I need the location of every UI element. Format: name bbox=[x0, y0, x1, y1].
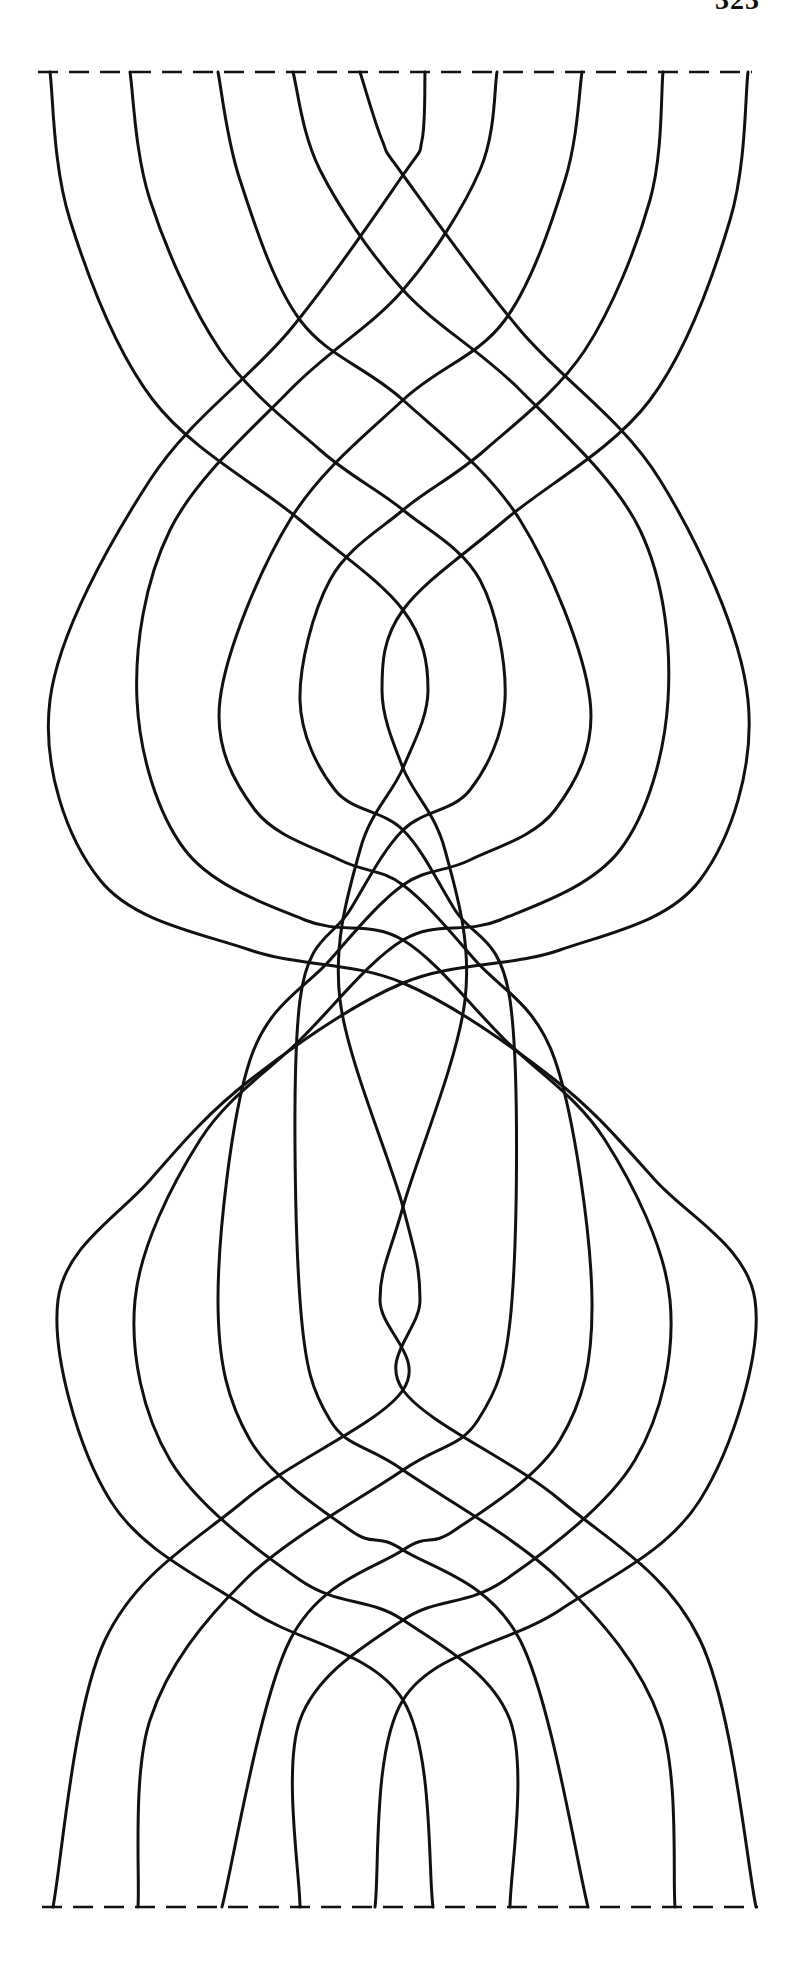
strand-r4 bbox=[53, 72, 748, 1907]
strand-group bbox=[48, 72, 756, 1907]
strand-l4 bbox=[50, 72, 756, 1907]
strand-r0 bbox=[48, 72, 756, 1907]
strand-l3 bbox=[130, 72, 675, 1907]
strand-l0 bbox=[57, 72, 749, 1907]
woven-strand-diagram bbox=[0, 0, 800, 1973]
